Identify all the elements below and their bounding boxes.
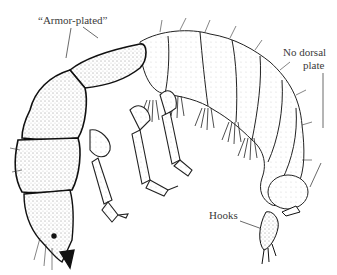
head — [24, 190, 74, 268]
label-no-dorsal-line1: No dorsal — [283, 46, 326, 58]
anal-hooks — [260, 206, 300, 264]
label-no-dorsal-line2: plate — [303, 59, 324, 71]
larva-illustration — [0, 0, 337, 275]
label-armor-plated: “Armor-plated” — [38, 14, 107, 26]
legs — [90, 91, 192, 222]
thorax-plates — [15, 44, 146, 193]
label-hooks: Hooks — [209, 209, 238, 221]
